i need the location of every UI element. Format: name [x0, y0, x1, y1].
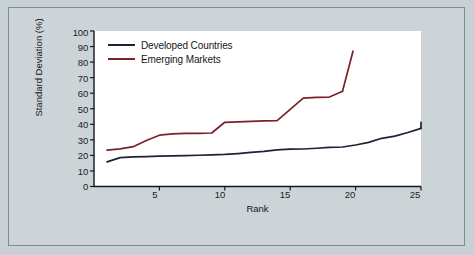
- chart-legend: Developed Countries Emerging Markets: [108, 38, 278, 66]
- y-tick-label: 30: [62, 136, 88, 146]
- legend-swatch-developed-icon: [108, 44, 135, 46]
- y-tick-label: 20: [62, 151, 88, 161]
- y-tick-label: 70: [62, 74, 88, 84]
- screenshot-root: Standard Deviation (%) Rank 100 90 80 70…: [0, 0, 474, 255]
- x-tick-label: 5: [143, 190, 167, 200]
- legend-label: Developed Countries: [141, 40, 233, 51]
- x-tick-label: 20: [338, 190, 362, 200]
- y-tick-label: 60: [62, 89, 88, 99]
- y-tick-label: 50: [62, 105, 88, 115]
- x-tick-label: 15: [273, 190, 297, 200]
- y-tick-label: 100: [62, 28, 88, 38]
- legend-label: Emerging Markets: [141, 54, 221, 65]
- y-axis-title: Standard Deviation (%): [33, 8, 44, 128]
- y-tick-label: 0: [62, 182, 88, 192]
- legend-swatch-emerging-icon: [108, 58, 135, 60]
- legend-item-emerging-markets: Emerging Markets: [108, 52, 278, 66]
- x-tick-label: 10: [208, 190, 232, 200]
- legend-item-developed-countries: Developed Countries: [108, 38, 278, 52]
- x-tick-label: 25: [403, 190, 427, 200]
- y-tick-label: 80: [62, 58, 88, 68]
- y-tick-label: 40: [62, 120, 88, 130]
- y-tick-label: 90: [62, 43, 88, 53]
- x-axis-title: Rank: [94, 203, 421, 214]
- y-tick-label: 10: [62, 167, 88, 177]
